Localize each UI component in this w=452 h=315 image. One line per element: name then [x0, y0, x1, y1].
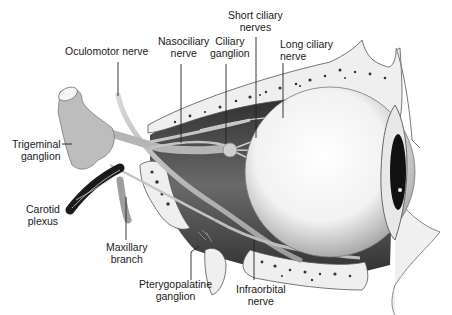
- label-line: ganglion: [139, 290, 212, 302]
- label-line: Carotid: [26, 203, 60, 215]
- label-oculomotor-nerve: Oculomotor nerve: [65, 45, 148, 57]
- label-line: Nasociliary: [158, 35, 209, 47]
- label-short-ciliary-nerves: Short ciliary nerves: [228, 9, 283, 33]
- pupil: [390, 134, 406, 210]
- label-ciliary-ganglion: Ciliary ganglion: [210, 35, 250, 59]
- label-infraorbital-nerve: Infraorbital nerve: [236, 283, 286, 307]
- label-long-ciliary-nerve: Long ciliary nerve: [280, 38, 333, 62]
- label-nasociliary-nerve: Nasociliary nerve: [158, 35, 209, 59]
- label-line: Ciliary: [210, 35, 250, 47]
- label-line: branch: [106, 253, 147, 265]
- eye-innervation-diagram: Oculomotor nerve Nasociliary nerve Cilia…: [0, 0, 452, 315]
- label-trigeminal-ganglion: Trigeminal ganglion: [12, 138, 61, 162]
- label-line: ganglion: [210, 47, 250, 59]
- label-line: Trigeminal: [12, 138, 61, 150]
- label-carotid-plexus: Carotid plexus: [26, 203, 60, 227]
- maxillary-branch-trunk: [120, 180, 128, 220]
- label-line: Oculomotor nerve: [65, 45, 148, 57]
- label-line: Short ciliary: [228, 9, 283, 21]
- label-line: Pterygopalatine: [139, 278, 212, 290]
- label-line: nerve: [236, 295, 286, 307]
- label-line: Maxillary: [106, 241, 147, 253]
- label-line: nerves: [228, 21, 283, 33]
- label-pterygopalatine-ganglion: Pterygopalatine ganglion: [139, 278, 212, 302]
- label-line: Long ciliary: [280, 38, 333, 50]
- label-line: Infraorbital: [236, 283, 286, 295]
- label-line: plexus: [26, 215, 60, 227]
- label-line: nerve: [158, 47, 209, 59]
- label-line: nerve: [280, 50, 333, 62]
- ciliary-ganglion-shape: [223, 143, 237, 157]
- label-line: ganglion: [12, 150, 61, 162]
- label-maxillary-branch: Maxillary branch: [106, 241, 147, 265]
